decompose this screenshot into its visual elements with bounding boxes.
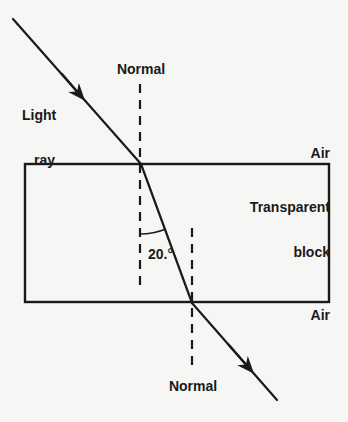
air-bottom-label: Air — [311, 308, 330, 323]
angle-arc — [140, 229, 166, 234]
light-ray-label: Light ray — [22, 78, 56, 198]
angle-label: 20.° — [148, 247, 173, 262]
light-ray-label-line1: Light — [22, 108, 56, 123]
air-top-label: Air — [311, 146, 330, 161]
transparent-block-label: Transparent block — [250, 170, 330, 290]
transparent-block-label-line1: Transparent — [250, 200, 330, 215]
normal-bottom-label: Normal — [169, 379, 217, 394]
refraction-diagram: Light ray Normal Air Transparent block 2… — [0, 0, 348, 422]
exit-ray-arrow-icon — [228, 344, 249, 368]
normal-top-label: Normal — [117, 62, 165, 77]
light-ray-label-line2: ray — [22, 153, 56, 168]
incident-ray-arrow-icon — [62, 74, 80, 95]
transparent-block-label-line2: block — [250, 245, 330, 260]
